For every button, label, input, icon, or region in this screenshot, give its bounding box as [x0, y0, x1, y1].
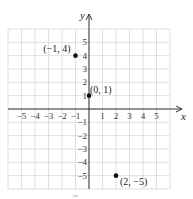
- y-tick-label: −4: [77, 157, 87, 167]
- y-tick-label: 1: [83, 91, 88, 101]
- x-tick-label: 3: [127, 111, 132, 121]
- y-tick-label: −1: [77, 117, 87, 127]
- point-label: (0, 1): [90, 84, 112, 96]
- data-point: [73, 53, 78, 58]
- y-tick-label: −3: [77, 144, 87, 154]
- y-tick-label: −5: [77, 171, 87, 181]
- x-axis-label: x: [180, 110, 186, 122]
- x-tick-label: −3: [44, 111, 54, 121]
- y-tick-label: 3: [83, 64, 88, 74]
- x-tick-label: 5: [154, 111, 159, 121]
- axes: [8, 14, 182, 189]
- point-label: (2, −5): [120, 176, 147, 188]
- coordinate-plane: −5−4−3−2−112345−5−4−3−2−112345 (−1, 4)(0…: [0, 0, 193, 199]
- point-label: (−1, 4): [43, 43, 70, 55]
- x-tick-label: −2: [57, 111, 67, 121]
- data-point: [114, 173, 119, 178]
- x-tick-label: 4: [141, 111, 146, 121]
- x-tick-label: 1: [100, 111, 105, 121]
- x-tick-label: 2: [114, 111, 119, 121]
- y-tick-label: 4: [83, 51, 88, 61]
- y-tick-label: 5: [83, 37, 88, 47]
- y-axis-label: y: [79, 9, 85, 21]
- x-tick-label: −4: [30, 111, 40, 121]
- x-tick-label: −5: [17, 111, 27, 121]
- y-tick-label: 2: [83, 77, 88, 87]
- y-tick-label: −2: [77, 131, 87, 141]
